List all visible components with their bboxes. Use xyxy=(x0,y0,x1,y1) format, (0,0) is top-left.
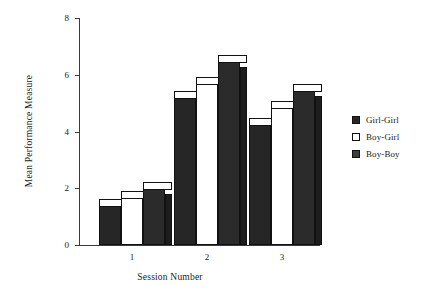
bar-side xyxy=(240,67,247,245)
gray-pattern-swatch-icon xyxy=(352,150,360,158)
legend-item-boy-boy: Boy-Boy xyxy=(352,147,400,161)
x-tick-label-1: 1 xyxy=(130,252,135,262)
plot-area: 0 2 4 6 8 xyxy=(79,18,319,245)
bar-face xyxy=(249,124,271,245)
y-tick-8: 8 xyxy=(75,18,79,19)
bar-face xyxy=(293,90,315,245)
bar-session1-boy-girl xyxy=(121,197,143,245)
legend-label-boy-boy: Boy-Boy xyxy=(366,149,400,159)
legend-item-girl-girl: Girl-Girl xyxy=(352,113,400,127)
y-tick-label-2: 2 xyxy=(65,183,70,193)
x-tick-label-2: 2 xyxy=(205,252,210,262)
bar-top xyxy=(293,84,322,92)
y-tick-2: 2 xyxy=(75,188,79,189)
bar-top xyxy=(143,182,172,190)
bar-side xyxy=(315,96,322,245)
bar-session1-girl-girl xyxy=(99,205,121,245)
chart-legend: Girl-Girl Boy-Girl Boy-Boy xyxy=(352,113,400,164)
bar-face xyxy=(174,97,196,245)
legend-label-girl-girl: Girl-Girl xyxy=(366,115,399,125)
y-tick-label-4: 4 xyxy=(65,127,70,137)
legend-label-boy-girl: Boy-Girl xyxy=(366,132,399,142)
legend-item-boy-girl: Boy-Girl xyxy=(352,130,400,144)
bar-face xyxy=(218,61,240,245)
bar-session1-boy-boy xyxy=(143,188,165,245)
bar-session2-boy-girl xyxy=(196,83,218,245)
white-outline-swatch-icon xyxy=(352,133,360,141)
bar-top xyxy=(218,55,247,63)
x-axis-line xyxy=(79,245,320,246)
bar-session2-girl-girl xyxy=(174,97,196,245)
y-tick-label-6: 6 xyxy=(65,70,70,80)
bar-session3-boy-boy xyxy=(293,90,315,245)
x-tick-label-3: 3 xyxy=(280,252,285,262)
y-tick-0: 0 xyxy=(75,245,79,246)
y-tick-label-0: 0 xyxy=(65,240,70,250)
bar-session3-boy-girl xyxy=(271,107,293,245)
y-tick-label-8: 8 xyxy=(65,13,70,23)
solid-dark-swatch-icon xyxy=(352,116,360,124)
bar-face xyxy=(121,197,143,245)
bar-session3-girl-girl xyxy=(249,124,271,245)
y-tick-6: 6 xyxy=(75,75,79,76)
bar-side xyxy=(165,194,172,245)
bar-session2-boy-boy xyxy=(218,61,240,245)
chart-figure: Mean Performance Measure 0 2 4 6 8 xyxy=(0,0,429,293)
y-axis-title: Mean Performance Measure xyxy=(24,46,34,216)
bar-face xyxy=(271,107,293,245)
y-axis-line xyxy=(79,18,80,246)
y-tick-4: 4 xyxy=(75,132,79,133)
x-axis-title: Session Number xyxy=(0,272,340,282)
bar-face xyxy=(196,83,218,245)
bar-face xyxy=(99,205,121,245)
bar-face xyxy=(143,188,165,245)
